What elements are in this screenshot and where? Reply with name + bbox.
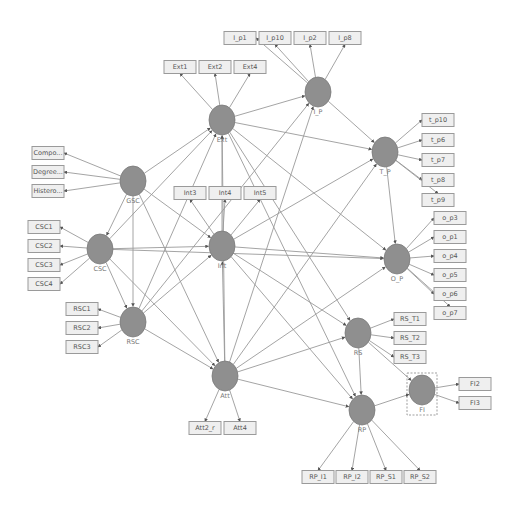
path-Att-RP[interactable] bbox=[238, 379, 349, 407]
path-RP-FI[interactable] bbox=[374, 394, 408, 405]
loading-CSC-CSC4[interactable] bbox=[60, 258, 90, 284]
latent-variable-T_P[interactable]: T_P bbox=[372, 137, 398, 176]
indicator-box[interactable]: Histero... bbox=[32, 185, 64, 198]
loading-O_P-o_p6[interactable] bbox=[407, 269, 434, 294]
loading-I_P-I_p2[interactable] bbox=[310, 45, 316, 78]
path-CSC-RSC[interactable] bbox=[106, 262, 127, 308]
indicator-box[interactable]: RP_I2 bbox=[336, 471, 368, 484]
loading-FI-FI2[interactable] bbox=[435, 384, 459, 388]
loading-FI-FI3[interactable] bbox=[434, 394, 459, 403]
loading-GSC-Compo...[interactable] bbox=[64, 153, 121, 176]
indicator-box[interactable]: Degree... bbox=[32, 166, 64, 179]
indicator-box[interactable]: RS_T2 bbox=[394, 332, 426, 345]
indicator-box[interactable]: Ext2 bbox=[199, 61, 231, 74]
indicator-box[interactable]: CSC1 bbox=[28, 221, 60, 234]
path-I_P-T_P[interactable] bbox=[328, 101, 374, 142]
indicator-box[interactable]: Int4 bbox=[209, 187, 241, 200]
loading-Ext-Ext4[interactable] bbox=[229, 74, 250, 108]
indicator-box[interactable]: I_p2 bbox=[294, 32, 326, 45]
loading-Ext-Ext1[interactable] bbox=[180, 74, 213, 110]
indicator-box[interactable]: Att2_r bbox=[189, 422, 221, 435]
indicator-box[interactable]: FI2 bbox=[459, 378, 491, 391]
indicator-box[interactable]: Compo... bbox=[32, 147, 64, 160]
loading-RP-RP_I1[interactable] bbox=[318, 421, 354, 470]
indicator-box[interactable]: Att4 bbox=[224, 422, 256, 435]
indicator-box[interactable]: o_p6 bbox=[434, 288, 466, 301]
indicator-box[interactable]: CSC3 bbox=[28, 259, 60, 272]
path-RSC-Ext[interactable] bbox=[139, 134, 216, 309]
indicator-box[interactable]: RS_T1 bbox=[394, 313, 426, 326]
indicator-box[interactable]: RP_I1 bbox=[302, 471, 334, 484]
indicator-box[interactable]: Ext4 bbox=[234, 61, 266, 74]
indicator-box[interactable]: Int5 bbox=[244, 187, 276, 200]
indicator-box[interactable]: I_p10 bbox=[259, 32, 291, 45]
loading-RSC-RSC2[interactable] bbox=[98, 324, 120, 328]
loading-Att-Att2_r[interactable] bbox=[205, 389, 219, 421]
path-Att-RS[interactable] bbox=[238, 337, 345, 372]
indicator-box[interactable]: RSC2 bbox=[66, 322, 98, 335]
path-RSC-Att[interactable] bbox=[145, 329, 213, 369]
path-CSC-O_P[interactable] bbox=[113, 249, 383, 258]
loading-Int-Int5[interactable] bbox=[231, 200, 260, 236]
path-Att-O_P[interactable] bbox=[236, 267, 385, 368]
indicator-box[interactable]: o_p3 bbox=[434, 212, 466, 225]
indicator-box[interactable]: o_p7 bbox=[434, 307, 466, 320]
path-GSC-CSC[interactable] bbox=[107, 194, 127, 235]
latent-variable-RP[interactable]: RP bbox=[349, 395, 375, 434]
indicator-box[interactable]: RP_S2 bbox=[404, 471, 436, 484]
latent-variable-Att[interactable]: Att bbox=[212, 361, 238, 400]
loading-CSC-CSC2[interactable] bbox=[60, 246, 87, 248]
indicator-box[interactable]: RP_S1 bbox=[370, 471, 402, 484]
indicator-box[interactable]: t_p9 bbox=[422, 194, 454, 207]
path-Ext-I_P[interactable] bbox=[235, 96, 305, 116]
path-T_P-O_P[interactable] bbox=[387, 167, 396, 244]
path-Int-RS[interactable] bbox=[233, 253, 346, 325]
loading-CSC-CSC1[interactable] bbox=[60, 227, 88, 243]
loading-I_P-I_p8[interactable] bbox=[325, 45, 345, 80]
path-RSC-Int[interactable] bbox=[143, 255, 211, 313]
latent-variable-I_P[interactable]: I_P bbox=[305, 77, 331, 116]
loading-RP-RP_S2[interactable] bbox=[372, 420, 420, 470]
path-GSC-Ext[interactable] bbox=[144, 128, 210, 173]
indicator-box[interactable]: RSC1 bbox=[66, 303, 98, 316]
indicator-box[interactable]: t_p8 bbox=[422, 174, 454, 187]
indicator-box[interactable]: t_p10 bbox=[422, 114, 454, 127]
indicator-box[interactable]: RSC3 bbox=[66, 341, 98, 354]
loading-T_P-t_p6[interactable] bbox=[398, 140, 422, 148]
indicator-box[interactable]: Ext1 bbox=[164, 61, 196, 74]
latent-variable-RSC[interactable]: RSC bbox=[120, 307, 146, 346]
indicator-box[interactable]: Int3 bbox=[174, 187, 206, 200]
indicator-box[interactable]: t_p7 bbox=[422, 154, 454, 167]
indicator-box[interactable]: RS_T3 bbox=[394, 351, 426, 364]
loading-T_P-t_p7[interactable] bbox=[398, 155, 422, 160]
loading-RSC-RSC3[interactable] bbox=[98, 330, 122, 347]
loading-O_P-o_p1[interactable] bbox=[409, 237, 434, 252]
path-GSC-Att[interactable] bbox=[139, 194, 218, 362]
indicator-box[interactable]: o_p1 bbox=[434, 231, 466, 244]
indicator-box[interactable]: o_p4 bbox=[434, 250, 466, 263]
latent-variable-O_P[interactable]: O_P bbox=[384, 244, 410, 283]
latent-variable-FI[interactable]: FI bbox=[407, 373, 437, 415]
loading-RS-RS_T1[interactable] bbox=[370, 319, 394, 328]
indicator-box[interactable]: o_p5 bbox=[434, 269, 466, 282]
loading-I_P-I_p10[interactable] bbox=[275, 45, 309, 82]
loading-Ext-Ext2[interactable] bbox=[215, 74, 220, 106]
indicator-box[interactable]: CSC2 bbox=[28, 240, 60, 253]
latent-variable-Int[interactable]: Int bbox=[209, 231, 235, 270]
loading-Att-Att4[interactable] bbox=[230, 390, 240, 421]
loading-RS-RS_T2[interactable] bbox=[371, 335, 394, 338]
indicator-box[interactable]: t_p6 bbox=[422, 134, 454, 147]
loading-T_P-t_p10[interactable] bbox=[395, 120, 422, 143]
path-model-canvas[interactable]: Ext1Ext2Ext4I_p1I_p10I_p2I_p8t_p10t_p6t_… bbox=[0, 0, 523, 513]
loading-RSC-RSC1[interactable] bbox=[98, 309, 121, 317]
indicator-box[interactable]: FI3 bbox=[459, 397, 491, 410]
latent-variable-RS[interactable]: RS bbox=[345, 318, 371, 357]
loading-Int-Int3[interactable] bbox=[190, 200, 214, 235]
loading-RP-RP_S1[interactable] bbox=[367, 424, 386, 471]
path-Int-RP[interactable] bbox=[231, 257, 352, 399]
loading-GSC-Histero...[interactable] bbox=[64, 183, 120, 191]
loading-O_P-o_p3[interactable] bbox=[406, 218, 434, 249]
indicator-box[interactable]: I_p8 bbox=[329, 32, 361, 45]
indicator-box[interactable]: I_p1 bbox=[224, 32, 256, 45]
indicator-box[interactable]: CSC4 bbox=[28, 278, 60, 291]
